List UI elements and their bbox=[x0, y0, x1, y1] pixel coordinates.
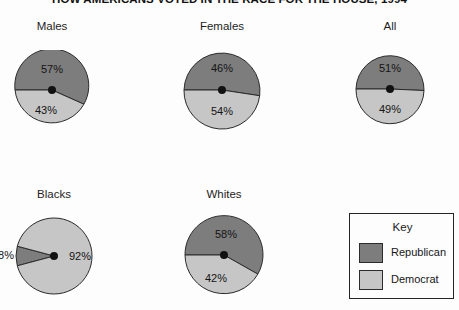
legend-swatch-democrat bbox=[359, 270, 383, 290]
pie-label-females: Females bbox=[152, 20, 292, 32]
pie-value-females-republican: 46% bbox=[202, 62, 242, 74]
legend-box: Key Republican Democrat bbox=[349, 213, 454, 299]
legend-title: Key bbox=[350, 221, 455, 233]
pie-graphic-males bbox=[12, 50, 92, 130]
legend-label-republican: Republican bbox=[391, 246, 446, 258]
pie-value-females-democrat: 54% bbox=[202, 105, 242, 117]
pie-value-blacks-republican: 8% bbox=[0, 249, 20, 261]
pie-value-blacks-democrat: 92% bbox=[60, 250, 100, 262]
pie-chart-figure: HOW AMERICANS VOTED IN THE RACE FOR THE … bbox=[0, 0, 459, 310]
pie-label-males: Males bbox=[0, 20, 122, 32]
pie-value-all-republican: 51% bbox=[370, 62, 410, 74]
pie-value-all-democrat: 49% bbox=[370, 103, 410, 115]
legend-swatch-republican bbox=[359, 243, 383, 263]
legend-label-democrat: Democrat bbox=[391, 273, 439, 285]
pie-value-whites-republican: 58% bbox=[206, 228, 246, 240]
pie-value-whites-democrat: 42% bbox=[196, 272, 236, 284]
pie-label-whites: Whites bbox=[154, 188, 294, 200]
pie-label-blacks: Blacks bbox=[0, 188, 124, 200]
pie-value-males-republican: 57% bbox=[32, 63, 72, 75]
page-title: HOW AMERICANS VOTED IN THE RACE FOR THE … bbox=[0, 0, 459, 5]
legend-item-republican: Republican bbox=[359, 243, 454, 265]
legend-item-democrat: Democrat bbox=[359, 270, 454, 292]
pie-value-males-democrat: 43% bbox=[26, 104, 66, 116]
pie-label-all: All bbox=[320, 20, 459, 32]
